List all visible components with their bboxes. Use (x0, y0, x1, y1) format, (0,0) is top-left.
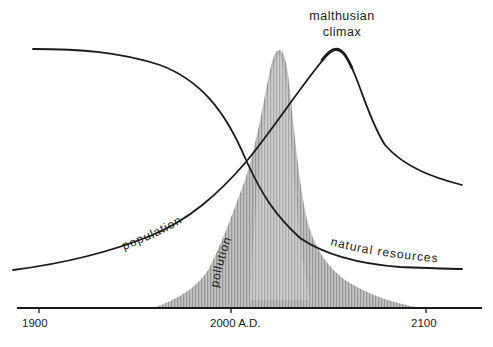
tick-label-2100: 2100 (411, 317, 437, 329)
tick-label-2000: 2000 A.D. (210, 317, 261, 329)
malthusian-climax-line2: climax (296, 24, 388, 40)
chart-canvas: population pollution natural resources (0, 0, 493, 347)
natural-resources-label: natural resources (329, 234, 439, 265)
malthusian-climax-label: malthusian climax (296, 8, 388, 40)
population-label: population (120, 213, 185, 253)
tick-label-1900: 1900 (22, 317, 48, 329)
pollution-highlight (250, 55, 310, 300)
population-peak-emphasis (322, 49, 352, 68)
malthusian-climax-line1: malthusian (296, 8, 388, 24)
